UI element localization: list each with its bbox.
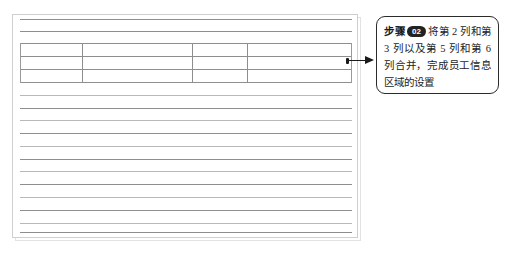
table-row-line <box>20 56 352 57</box>
table-column-divider <box>20 43 21 83</box>
table-row-line <box>20 95 352 96</box>
table-row-line <box>20 69 352 70</box>
table-row-line <box>20 82 352 83</box>
table-row-line <box>20 210 352 211</box>
arrow-shaft <box>347 60 367 61</box>
pointer-arrow <box>347 56 375 65</box>
step-number-badge: 02 <box>407 26 426 37</box>
table-row-line <box>20 184 352 185</box>
table-row-line <box>20 171 352 172</box>
table-row-line <box>20 146 352 147</box>
table-grid <box>20 19 352 233</box>
step-callout-text: 步骤02将第 2 列和第 3 列以及第 5 列和第 6 列合并，完成员工信息区域… <box>384 23 491 91</box>
table-row-line <box>20 31 352 32</box>
arrow-head-icon <box>365 56 374 64</box>
screenshot-root: 步骤02将第 2 列和第 3 列以及第 5 列和第 6 列合并，完成员工信息区域… <box>0 0 507 254</box>
table-column-divider <box>247 43 248 83</box>
table-row-line <box>20 133 352 134</box>
table-row-line <box>20 232 352 233</box>
table-row-line <box>20 43 352 44</box>
table-row-line <box>20 108 352 109</box>
table-row-line <box>20 197 352 198</box>
table-row-line <box>20 223 352 224</box>
worksheet-table-illustration <box>12 14 360 240</box>
table-column-divider <box>82 43 83 83</box>
table-row-line <box>20 159 352 160</box>
step-label: 步骤 <box>384 26 405 37</box>
table-row-line <box>20 19 352 20</box>
table-row-line <box>20 120 352 121</box>
step-callout: 步骤02将第 2 列和第 3 列以及第 5 列和第 6 列合并，完成员工信息区域… <box>376 16 499 94</box>
table-column-divider <box>192 43 193 83</box>
